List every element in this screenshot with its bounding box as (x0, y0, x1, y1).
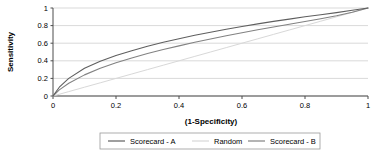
x-axis-title: (1-Specificity) (185, 117, 238, 126)
x-tick-label: 0.4 (174, 101, 184, 110)
x-tick-label: 1 (366, 101, 370, 110)
roc-chart-canvas: 00.20.40.60.81 00.20.40.60.81 Sensitivit… (0, 0, 378, 160)
y-tick-label: 0.8 (38, 21, 48, 30)
x-tick-label: 0 (51, 101, 55, 110)
x-tick-label: 0.8 (300, 101, 310, 110)
y-tick-label: 1 (44, 4, 48, 13)
y-tick-label: 0.4 (38, 56, 48, 65)
legend-label: Scorecard - A (130, 137, 175, 146)
legend-label: Scorecard - B (270, 137, 316, 146)
y-axis-title: Sensitivity (6, 31, 15, 72)
y-tick-label: 0.2 (38, 74, 48, 83)
x-tick-label: 0.2 (111, 101, 121, 110)
legend: Scorecard - ARandomScorecard - B (100, 133, 320, 149)
x-tick-label: 0.6 (237, 101, 247, 110)
legend-label: Random (214, 137, 242, 146)
y-tick-label: 0.6 (38, 39, 48, 48)
y-tick-label: 0 (44, 92, 48, 101)
roc-chart-figure: 00.20.40.60.81 00.20.40.60.81 Sensitivit… (0, 0, 378, 160)
